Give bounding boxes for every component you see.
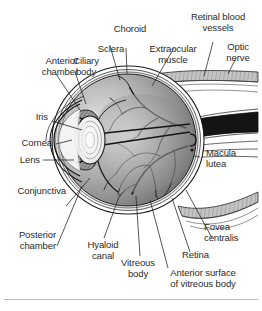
label-fovea-centralis: Fovea centralis xyxy=(204,222,260,243)
label-retina: Retina xyxy=(182,250,236,261)
label-retinal-blood-vessels: Retinal blood vessels xyxy=(182,12,254,33)
eye-anatomy-figure: Anterior chamber Ciliary body Sclera Cho… xyxy=(0,0,262,311)
label-ciliary-body: Ciliary body xyxy=(60,56,112,77)
label-choroid: Choroid xyxy=(108,24,152,35)
label-lens: Lens xyxy=(4,155,40,166)
label-sclera: Sclera xyxy=(92,44,130,55)
label-posterior-chamber: Posterior chamber xyxy=(4,230,56,251)
label-iris: Iris xyxy=(4,112,48,123)
label-macula-lutea: Macula lutea xyxy=(206,148,260,169)
label-extraocular-muscle: Extraocular muscle xyxy=(142,44,204,65)
label-anterior-surface-vitreous: Anterior surface of vitreous body xyxy=(148,268,258,289)
label-conjunctiva: Conjunctiva xyxy=(4,186,66,197)
label-cornea: Cornea xyxy=(4,138,52,149)
bottom-divider xyxy=(4,299,258,300)
posterior-chamber-space xyxy=(77,120,86,160)
label-optic-nerve: Optic nerve xyxy=(218,42,258,63)
